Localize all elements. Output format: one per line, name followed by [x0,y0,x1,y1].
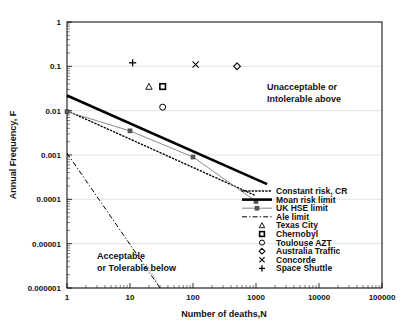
x-tick-label: 10000 [308,293,331,302]
y-tick-label: 0.1 [50,62,62,71]
y-tick-label: 0.00001 [32,240,61,249]
series-marker [191,155,195,159]
annotation-line: Intolerable above [267,94,341,104]
legend-label: Space Shuttle [276,263,332,273]
chart-background [0,0,404,332]
series-marker [65,110,69,114]
chart-canvas: 110100100010000100000 10.10.010.0010.000… [0,0,404,332]
risk-fn-chart: 110100100010000100000 10.10.010.0010.000… [0,0,404,332]
y-tick-label: 0.0001 [37,195,62,204]
y-tick-label: 0.001 [41,151,62,160]
x-tick-label: 10 [126,293,135,302]
y-tick-label: 0.000001 [28,284,62,293]
x-tick-label: 1000 [247,293,265,302]
series-marker [128,129,132,133]
annotation-line: or Tolerable below [97,263,177,273]
x-axis-title: Number of deaths,N [181,309,267,319]
x-tick-label: 1 [65,293,70,302]
legend-line-marker [255,206,259,210]
y-axis-title: Annual Frequency, F [8,110,18,199]
x-tick-label: 100 [186,293,200,302]
y-tick-label: 1 [57,18,62,27]
y-tick-label: 0.01 [45,107,61,116]
x-tick-label: 100000 [369,293,396,302]
annotation-line: Unacceptable or [267,82,338,92]
annotation-line: Acceptable [97,251,145,261]
